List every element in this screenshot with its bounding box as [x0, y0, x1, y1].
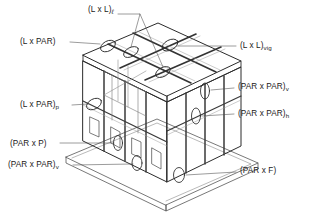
label-par-x-p: (PAR x P) [10, 140, 47, 148]
label-l-x-l-vig: (L x L)vig [240, 42, 272, 50]
label-sub: ℓ [112, 8, 114, 15]
label-par-x-par-h: (PAR x PAR)h [238, 110, 289, 118]
label-par-x-par-v-right: (PAR x PAR)v [238, 83, 289, 91]
label-sub: p [55, 103, 59, 110]
label-l-x-par-p: (L x PAR)p [20, 101, 59, 109]
label-par-x-f: (PAR x F) [240, 167, 276, 175]
label-base: (L x PAR) [20, 100, 55, 109]
label-par-x-par-v-bottom: (PAR x PAR)v [8, 161, 59, 169]
marker-front-mid [114, 136, 123, 151]
label-l-x-l-l: (L x L)ℓ [88, 6, 114, 14]
marker-base-right [174, 168, 185, 183]
floor-slab [66, 119, 258, 211]
label-base: (PAR x PAR) [238, 109, 286, 118]
label-base: (L x PAR) [20, 37, 55, 46]
label-base: (L x L) [240, 41, 264, 50]
marker-roof-left [99, 38, 118, 54]
label-sub: v [56, 163, 59, 170]
diagram-canvas: (L x L)ℓ (L x PAR) (L x L)vig (PAR x PAR… [0, 0, 311, 214]
front-facade [83, 61, 167, 182]
label-l-x-par: (L x PAR) [20, 38, 55, 46]
label-sub: h [286, 112, 290, 119]
label-sub: v [286, 85, 289, 92]
label-sub: vig [264, 44, 272, 51]
label-base: (L x L) [88, 5, 112, 14]
leader-lines [60, 14, 236, 175]
label-base: (PAR x P) [10, 139, 47, 148]
label-base: (PAR x PAR) [8, 160, 56, 169]
right-facade [167, 67, 241, 182]
label-base: (PAR x PAR) [238, 82, 286, 91]
roof-panel-grid [83, 23, 241, 102]
marker-front-low [132, 156, 142, 171]
label-base: (PAR x F) [240, 166, 276, 175]
